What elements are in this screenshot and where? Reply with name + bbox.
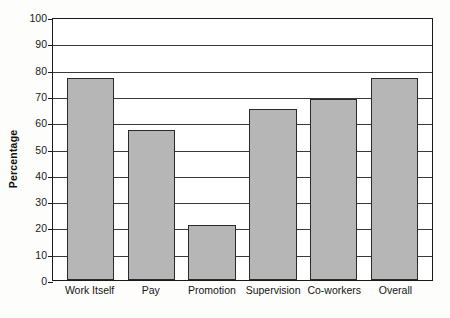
bar-slot <box>121 19 182 280</box>
bar-supervision <box>249 109 296 280</box>
y-axis-tick-mark <box>48 282 53 283</box>
x-axis-tick-label: Overall <box>365 284 426 306</box>
y-axis-tick-label: 90 <box>35 38 47 50</box>
y-axis-title-text: Percentage <box>7 130 19 189</box>
x-axis-tick-labels: Work ItselfPayPromotionSupervisionCo-wor… <box>52 284 433 306</box>
y-axis-tick-label: 0 <box>41 275 47 287</box>
bar-slot <box>364 19 425 280</box>
bar-pay <box>128 130 175 280</box>
x-axis-tick-label: Supervision <box>243 284 304 306</box>
y-axis-tick-label: 50 <box>35 144 47 156</box>
bar-overall <box>371 78 418 281</box>
x-axis-tick-label: Work Itself <box>59 284 120 306</box>
x-axis-tick-label: Promotion <box>181 284 242 306</box>
bar-work-itself <box>67 78 114 281</box>
bar-slot <box>182 19 243 280</box>
y-axis-tick-label: 70 <box>35 91 47 103</box>
bar-slot <box>60 19 121 280</box>
y-axis-tick-label: 10 <box>35 249 47 261</box>
bar-promotion <box>188 225 235 280</box>
y-axis-tick-label: 20 <box>35 222 47 234</box>
bar-chart-figure: Percentage 1009080706050403020100 Work I… <box>0 0 450 318</box>
y-axis-tick-label: 30 <box>35 196 47 208</box>
y-axis-tick-label: 40 <box>35 170 47 182</box>
x-axis-tick-label: Co-workers <box>304 284 365 306</box>
plot-area <box>52 18 433 281</box>
y-axis-tick-label: 60 <box>35 117 47 129</box>
y-axis-tick-labels: 1009080706050403020100 <box>22 18 50 281</box>
x-axis-tick-label: Pay <box>120 284 181 306</box>
y-axis-tick-label: 80 <box>35 65 47 77</box>
y-axis-tick-label: 100 <box>29 12 47 24</box>
bar-slot <box>242 19 303 280</box>
bar-series <box>53 19 432 280</box>
bar-co-workers <box>310 99 357 280</box>
bar-slot <box>303 19 364 280</box>
